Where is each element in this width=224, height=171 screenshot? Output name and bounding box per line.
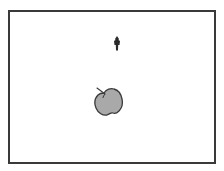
player-figure-icon <box>112 36 122 52</box>
game-stage <box>0 0 224 171</box>
apple-icon <box>93 85 125 118</box>
